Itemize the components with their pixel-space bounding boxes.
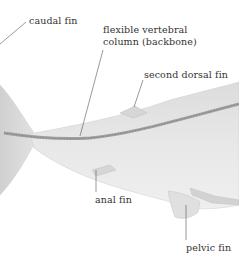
leader-caudal-fin xyxy=(0,22,26,44)
shark-diagram: caudal fin flexible vertebral column (ba… xyxy=(0,0,239,259)
label-backbone-line1: flexible vertebral xyxy=(103,24,197,36)
label-second-dorsal-fin: second dorsal fin xyxy=(144,69,228,81)
label-caudal-fin: caudal fin xyxy=(29,15,78,27)
label-anal-fin: anal fin xyxy=(95,194,132,206)
label-backbone-line2: column (backbone) xyxy=(103,36,197,48)
label-pelvic-fin: pelvic fin xyxy=(186,242,231,254)
leader-second-dorsal-fin xyxy=(134,80,143,107)
label-backbone: flexible vertebral column (backbone) xyxy=(103,24,197,48)
caudal-fin-shape xyxy=(0,85,36,195)
shark-body xyxy=(30,82,239,209)
